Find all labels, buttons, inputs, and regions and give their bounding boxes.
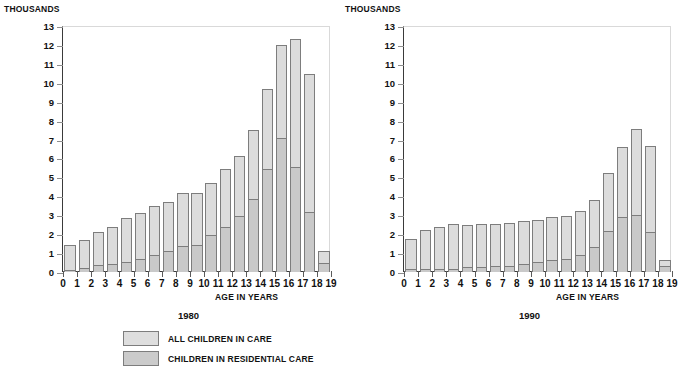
bar-children-in-residential-care <box>234 216 245 272</box>
bar-all-children-in-care <box>64 245 75 271</box>
x-axis-tick-label: 6 <box>145 278 151 289</box>
bar-all-children-in-care <box>518 221 529 271</box>
x-axis-tick-label: 10 <box>539 278 550 289</box>
bar-children-in-residential-care <box>262 169 273 272</box>
y-axis-tick-label: 3 <box>390 209 395 222</box>
y-axis-tick-label: 6 <box>49 152 54 165</box>
legend-entry-residential-care: CHILDREN IN RESIDENTIAL CARE <box>123 350 314 367</box>
bar-all-children-in-care <box>448 224 459 271</box>
bar-children-in-residential-care <box>575 255 586 272</box>
y-axis-tick-mark <box>398 46 404 47</box>
x-axis-tick-label: 13 <box>582 278 593 289</box>
x-axis-tick-label: 0 <box>60 278 66 289</box>
x-axis-tick-label: 11 <box>554 278 565 289</box>
bar-children-in-residential-care <box>490 266 501 272</box>
x-axis-tick-label: 12 <box>568 278 579 289</box>
bar-all-children-in-care <box>220 169 231 271</box>
bar-all-children-in-care <box>631 129 642 271</box>
bar-children-in-residential-care <box>603 231 614 272</box>
bar-all-children-in-care <box>135 213 146 271</box>
y-axis-tick-label: 13 <box>43 20 54 33</box>
x-axis-tick-label: 15 <box>610 278 621 289</box>
bar-all-children-in-care <box>234 156 245 271</box>
bar-children-in-residential-care <box>248 199 259 272</box>
y-axis-tick-mark <box>398 65 404 66</box>
chart-legend: ALL CHILDREN IN CARE CHILDREN IN RESIDEN… <box>123 330 314 370</box>
bar-children-in-residential-care <box>304 212 315 272</box>
x-axis-tick-label: 18 <box>652 278 663 289</box>
bar-all-children-in-care <box>561 216 572 271</box>
chart-panel-1980: THOUSANDS 131211109876543210012345678910… <box>0 0 342 320</box>
legend-swatch-all-children-icon <box>123 331 159 346</box>
bar-all-children-in-care <box>318 251 329 271</box>
y-axis-tick-mark <box>57 254 63 255</box>
bar-children-in-residential-care <box>420 269 431 272</box>
x-axis-tick-label: 19 <box>666 278 677 289</box>
legend-swatch-residential-care-icon <box>123 351 159 366</box>
y-axis-tick-label: 9 <box>49 96 54 109</box>
bar-children-in-residential-care <box>645 232 656 272</box>
y-axis-tick-label: 3 <box>49 209 54 222</box>
bar-all-children-in-care <box>290 39 301 271</box>
y-axis-tick-mark <box>398 254 404 255</box>
x-axis-tick-label: 2 <box>429 278 435 289</box>
y-axis-tick-label: 11 <box>385 58 395 71</box>
bar-children-in-residential-care <box>93 265 104 272</box>
bar-all-children-in-care <box>420 230 431 271</box>
bar-children-in-residential-care <box>205 235 216 272</box>
bar-all-children-in-care <box>304 74 315 271</box>
x-axis-tick-label: 6 <box>486 278 492 289</box>
bar-children-in-residential-care <box>135 259 146 272</box>
bar-all-children-in-care <box>121 218 132 271</box>
bar-all-children-in-care <box>476 224 487 271</box>
y-axis-tick-mark <box>398 159 404 160</box>
y-axis-tick-mark <box>398 216 404 217</box>
legend-label-residential-care: CHILDREN IN RESIDENTIAL CARE <box>168 354 314 364</box>
figure-root: THOUSANDS 131211109876543210012345678910… <box>0 0 685 389</box>
x-axis-tick-label: 19 <box>325 278 336 289</box>
y-axis-tick-label: 12 <box>43 39 54 52</box>
bar-children-in-residential-care <box>659 266 670 272</box>
y-axis-tick-label: 0 <box>390 266 395 279</box>
x-axis-title-1980: AGE IN YEARS <box>215 292 278 302</box>
y-axis-tick-mark <box>57 65 63 66</box>
x-axis-tick-label: 7 <box>500 278 506 289</box>
x-axis-tick-label: 16 <box>624 278 635 289</box>
bar-children-in-residential-care <box>532 262 543 272</box>
bar-children-in-residential-care <box>177 246 188 272</box>
y-axis-tick-label: 8 <box>49 115 54 128</box>
x-axis-tick-label: 17 <box>638 278 649 289</box>
bar-children-in-residential-care <box>276 138 287 272</box>
y-axis-tick-mark <box>398 197 404 198</box>
y-axis-tick-label: 4 <box>49 190 54 203</box>
bar-all-children-in-care <box>490 224 501 271</box>
bar-all-children-in-care <box>659 260 670 271</box>
bar-all-children-in-care <box>191 193 202 271</box>
bar-children-in-residential-care <box>434 269 445 272</box>
bar-all-children-in-care <box>603 173 614 271</box>
x-axis-tick-label: 10 <box>198 278 209 289</box>
bar-all-children-in-care <box>575 211 586 271</box>
bar-all-children-in-care <box>262 89 273 271</box>
legend-entry-all-children: ALL CHILDREN IN CARE <box>123 330 314 347</box>
bar-all-children-in-care <box>434 227 445 271</box>
bar-children-in-residential-care <box>476 267 487 272</box>
bar-all-children-in-care <box>248 130 259 271</box>
x-axis-tick-label: 4 <box>458 278 464 289</box>
y-axis-tick-mark <box>57 159 63 160</box>
bar-all-children-in-care <box>617 147 628 271</box>
y-axis-tick-label: 10 <box>43 77 54 90</box>
y-axis-tick-mark <box>57 84 63 85</box>
bar-children-in-residential-care <box>191 245 202 272</box>
bar-all-children-in-care <box>79 240 90 271</box>
x-axis-tick-label: 8 <box>173 278 179 289</box>
y-axis-tick-mark <box>57 46 63 47</box>
x-axis-tick-label: 4 <box>117 278 123 289</box>
y-axis-tick-mark <box>57 197 63 198</box>
y-axis-units-label-1990: THOUSANDS <box>345 4 401 14</box>
bar-children-in-residential-care <box>149 255 160 272</box>
y-axis-tick-mark <box>398 122 404 123</box>
panel-caption-1990: 1990 <box>519 310 540 321</box>
y-axis-tick-label: 2 <box>49 228 54 241</box>
x-axis-tick-label: 3 <box>103 278 109 289</box>
